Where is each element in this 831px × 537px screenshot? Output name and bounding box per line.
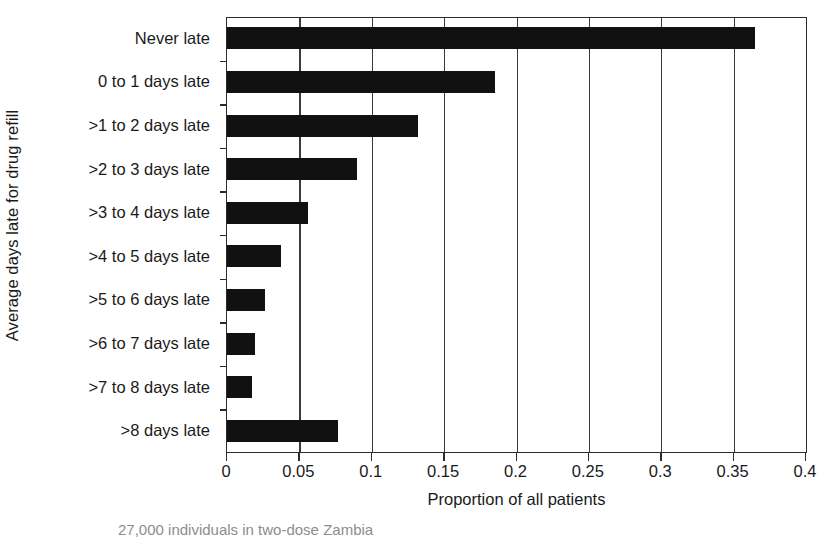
- gridline: [517, 18, 518, 452]
- bar: [227, 202, 308, 224]
- gridline: [589, 18, 590, 452]
- bar: [227, 71, 495, 93]
- x-axis-tick: [516, 453, 517, 461]
- bar: [227, 420, 338, 442]
- x-axis-tick: [733, 453, 734, 461]
- x-axis-tick-label: 0.2: [504, 462, 527, 481]
- category-label: >5 to 6 days late: [88, 291, 210, 308]
- x-axis-tick: [298, 453, 299, 461]
- bar-chart-figure: Average days late for drug refill Never …: [0, 0, 831, 537]
- x-axis-tick-label: 0.3: [649, 462, 672, 481]
- category-label: >3 to 4 days late: [88, 204, 210, 221]
- category-label: Never late: [135, 30, 210, 47]
- plot-area: [226, 17, 807, 453]
- x-axis-tick-label: 0.1: [359, 462, 382, 481]
- bar: [227, 333, 255, 355]
- bar: [227, 245, 281, 267]
- x-axis-tick-label: 0.4: [794, 462, 817, 481]
- x-axis-tick: [805, 453, 806, 461]
- gridline: [661, 18, 662, 452]
- bar: [227, 289, 265, 311]
- gridline: [734, 18, 735, 452]
- x-axis-tick-labels: 00.050.10.150.20.250.30.350.4: [190, 462, 831, 486]
- bar: [227, 27, 755, 49]
- category-label: >6 to 7 days late: [88, 335, 210, 352]
- category-label: >7 to 8 days late: [88, 379, 210, 396]
- x-axis-tick: [443, 453, 444, 461]
- x-axis-tick: [660, 453, 661, 461]
- x-axis-title: Proportion of all patients: [226, 490, 807, 509]
- x-axis-tick: [588, 453, 589, 461]
- x-axis-tick-label: 0.25: [572, 462, 604, 481]
- category-label-column: Never late0 to 1 days late>1 to 2 days l…: [28, 17, 218, 453]
- category-label: >8 days late: [121, 422, 210, 439]
- x-axis-tick: [226, 453, 227, 461]
- category-label: >2 to 3 days late: [88, 161, 210, 178]
- y-axis-title: Average days late for drug refill: [0, 0, 26, 450]
- category-label: >4 to 5 days late: [88, 248, 210, 265]
- bar: [227, 376, 252, 398]
- category-label: 0 to 1 days late: [98, 73, 210, 90]
- category-label: >1 to 2 days late: [88, 117, 210, 134]
- x-axis-tick-label: 0: [221, 462, 230, 481]
- x-axis-tick: [371, 453, 372, 461]
- cut-off-caption-text: 27,000 individuals in two-dose Zambia: [118, 524, 373, 537]
- x-axis-tick-label: 0.15: [427, 462, 459, 481]
- x-axis-tick-label: 0.35: [717, 462, 749, 481]
- x-axis-tick-label: 0.05: [282, 462, 314, 481]
- bar: [227, 115, 418, 137]
- y-axis-title-text: Average days late for drug refill: [4, 109, 23, 340]
- cut-off-caption: 27,000 individuals in two-dose Zambia: [0, 524, 831, 537]
- bar: [227, 158, 357, 180]
- x-axis-ticks: [226, 453, 807, 461]
